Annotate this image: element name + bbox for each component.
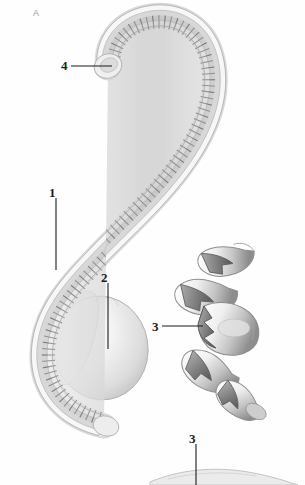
panel-label-a: A xyxy=(33,9,39,18)
callout-label-1: 1 xyxy=(49,186,56,199)
callout-label-3a: 3 xyxy=(152,320,159,333)
leader-lines xyxy=(0,0,305,485)
callout-label-4: 4 xyxy=(61,59,68,72)
callout-label-3b: 3 xyxy=(189,432,196,445)
figure-panel-a: A 12343 xyxy=(0,0,305,485)
callout-label-2: 2 xyxy=(101,271,108,284)
